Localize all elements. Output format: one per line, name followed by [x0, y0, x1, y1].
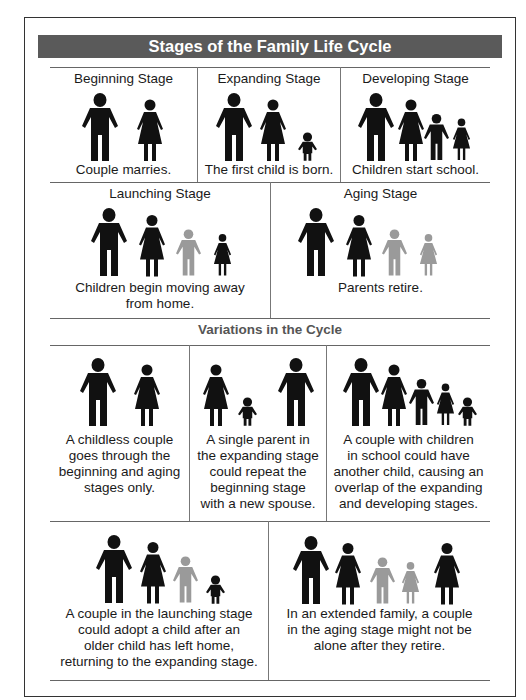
divider-col: [270, 182, 271, 318]
boy-gray-icon: [370, 556, 395, 605]
woman-icon: [202, 364, 230, 426]
man-icon: [82, 93, 118, 161]
caption-line: from home.: [50, 296, 270, 312]
divider-bottom: [50, 680, 490, 681]
divider-row2: [50, 318, 490, 319]
caption-line: A childless couple: [50, 432, 189, 448]
variation-caption-5: In an extended family, a couple in the a…: [269, 606, 490, 654]
stage-title-launching: Launching Stage: [50, 186, 270, 202]
stage-title-developing: Developing Stage: [341, 71, 490, 87]
stage-title-expanding: Expanding Stage: [198, 71, 340, 87]
variation-caption-1: A childless couple goes through the begi…: [50, 432, 189, 496]
toddler-icon: [458, 397, 477, 426]
variation-caption-4: A couple in the launching stage could ad…: [50, 606, 268, 670]
boy-gray-icon: [382, 228, 407, 277]
man-icon: [358, 93, 394, 161]
boy-icon: [409, 378, 434, 426]
caption-line: stages only.: [50, 480, 189, 496]
caption-line: in the aging stage might not be: [269, 622, 490, 638]
caption-line: could adopt a child after an: [50, 622, 268, 638]
girl-icon: [452, 117, 471, 161]
caption-line: in school could have: [327, 448, 490, 464]
caption-line: beginning stage: [190, 480, 326, 496]
caption-line: another child, causing an: [327, 464, 490, 480]
caption-line: A single parent in: [190, 432, 326, 448]
stage-caption-beginning: Couple marries.: [50, 162, 197, 178]
stage-caption-launching: Children begin moving away from home.: [50, 280, 270, 312]
caption-line: the expanding stage: [190, 448, 326, 464]
stage-title-aging: Aging Stage: [271, 186, 490, 202]
caption-line: and developing stages.: [327, 496, 490, 512]
caption-line: returning to the expanding stage.: [50, 654, 268, 670]
divider-variations-top: [50, 345, 490, 346]
man-icon: [96, 534, 132, 604]
variation-caption-2: A single parent in the expanding stage c…: [190, 432, 326, 512]
woman-icon: [138, 214, 166, 277]
caption-line: beginning and aging: [50, 464, 189, 480]
divider-variations-row: [50, 521, 490, 522]
girl-gray-icon: [419, 232, 438, 277]
boy-gray-icon: [176, 228, 201, 277]
man-icon: [298, 207, 334, 277]
woman-icon: [345, 214, 373, 277]
stage-caption-developing: Children start school.: [341, 162, 490, 178]
stage-caption-aging: Parents retire.: [271, 280, 490, 296]
woman-icon: [136, 99, 164, 161]
toddler-icon: [298, 132, 317, 161]
woman-icon: [139, 541, 167, 604]
man-icon: [80, 358, 116, 426]
divider-top: [50, 67, 490, 68]
girl-gray-icon: [401, 560, 420, 605]
caption-line: A couple in the launching stage: [50, 606, 268, 622]
toddler-icon: [206, 575, 225, 604]
man-icon: [293, 535, 329, 605]
caption-line: older child has left home,: [50, 638, 268, 654]
caption-line: A couple with children: [327, 432, 490, 448]
toddler-icon: [238, 397, 257, 426]
boy-icon: [424, 113, 449, 161]
caption-line: In an extended family, a couple: [269, 606, 490, 622]
woman-icon: [380, 364, 408, 426]
caption-line: Children begin moving away: [50, 280, 270, 296]
caption-line: alone after they retire.: [269, 638, 490, 654]
stage-caption-expanding: The first child is born.: [198, 162, 340, 178]
woman-icon: [397, 99, 425, 161]
woman-icon: [259, 99, 287, 161]
caption-line: with a new spouse.: [190, 496, 326, 512]
boy-gray-icon: [173, 555, 198, 604]
woman-icon: [334, 542, 362, 605]
girl-icon: [213, 232, 232, 277]
man-icon: [278, 358, 314, 426]
caption-line: overlap of the expanding: [327, 480, 490, 496]
caption-line: goes through the: [50, 448, 189, 464]
woman-icon: [133, 364, 161, 426]
caption-line: could repeat the: [190, 464, 326, 480]
man-icon: [91, 207, 127, 277]
man-icon: [216, 93, 252, 161]
page-title: Stages of the Family Life Cycle: [38, 35, 502, 58]
girl-icon: [436, 382, 455, 426]
variation-caption-3: A couple with children in school could h…: [327, 432, 490, 512]
woman-icon: [433, 542, 461, 605]
divider-col: [268, 521, 269, 680]
man-icon: [343, 358, 379, 426]
variations-heading: Variations in the Cycle: [50, 322, 490, 337]
stage-title-beginning: Beginning Stage: [50, 71, 197, 87]
